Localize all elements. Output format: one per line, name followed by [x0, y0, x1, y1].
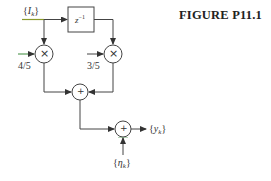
noise-signal-label: {ηk}: [113, 158, 131, 170]
adder-to-adder-line: [80, 100, 114, 129]
input-signal-label: {Ik}: [23, 6, 39, 18]
delay-output-line: [94, 20, 113, 45]
first-adder-symbol: +: [77, 87, 85, 96]
delay-block-label: z−1: [75, 14, 85, 25]
right-multiplier-symbol: ×: [109, 48, 118, 59]
left-multiplier-symbol: ×: [40, 48, 49, 59]
figure-title: FIGURE P11.1: [179, 8, 262, 23]
output-signal-label: {yk}: [149, 124, 166, 136]
second-adder-symbol: +: [120, 124, 128, 133]
block-diagram: [0, 0, 271, 181]
left-multiplier-to-adder: [44, 63, 71, 92]
gain-right-label: 3/5: [87, 61, 100, 71]
gain-left-label: 4/5: [18, 61, 31, 71]
